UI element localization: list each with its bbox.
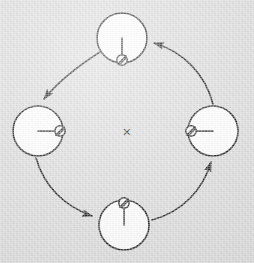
node-right	[186, 106, 238, 156]
center-cross-glyph: ×	[123, 123, 132, 140]
arrow-top-to-left-curve	[44, 52, 100, 99]
node-top	[97, 13, 147, 65]
figure-canvas: ×	[0, 0, 254, 263]
arrow-left-to-bottom-arrowhead	[82, 210, 93, 219]
node-right-slashed-disc-icon	[186, 126, 196, 136]
arrow-bottom-to-right-arrowhead	[205, 161, 215, 172]
arrow-top-to-left	[41, 52, 100, 101]
node-top-slashed-disc-icon	[117, 55, 127, 65]
arrow-left-to-bottom	[36, 158, 93, 219]
node-bottom	[99, 198, 149, 250]
node-left	[13, 106, 65, 156]
arrow-right-to-top-curve	[154, 43, 213, 104]
arrow-right-to-top-arrowhead	[153, 40, 164, 49]
node-left-slashed-disc-icon	[55, 126, 65, 136]
arrow-left-to-bottom-curve	[36, 158, 92, 216]
arrow-bottom-to-right	[152, 161, 214, 220]
center-cross: ×	[123, 123, 132, 140]
node-bottom-slashed-disc-icon	[119, 198, 129, 208]
cycle-diagram: ×	[0, 0, 254, 263]
arrow-right-to-top	[153, 40, 213, 104]
arrow-bottom-to-right-curve	[152, 162, 211, 220]
